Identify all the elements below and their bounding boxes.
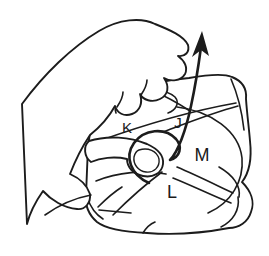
- fold-ml-band-lower: [173, 178, 231, 203]
- illustration-canvas: K J M L: [0, 0, 269, 256]
- fold-bottom-notch: [143, 222, 155, 233]
- label-l: L: [167, 182, 177, 202]
- fold-bl-corner-ray1: [98, 187, 122, 207]
- hand-outline: [22, 20, 188, 224]
- hand-flexing-paper-illustration: K J M L: [0, 0, 269, 256]
- fold-br-flap-inner2: [221, 197, 238, 227]
- fingernail: [134, 149, 159, 172]
- label-j: J: [174, 114, 182, 131]
- hand: [22, 20, 188, 224]
- fold-br-flap-inner1: [219, 167, 239, 197]
- fold-right-flap-inner: [231, 79, 244, 130]
- label-m: M: [195, 145, 210, 165]
- label-k: K: [122, 119, 132, 136]
- fold-l-diagonal: [113, 172, 162, 215]
